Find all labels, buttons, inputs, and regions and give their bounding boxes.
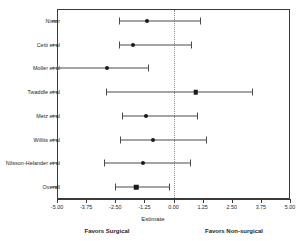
- confidence-interval-cap: [206, 136, 207, 143]
- x-axis-tick: [290, 199, 291, 203]
- x-axis-tick-label: 5.00: [285, 204, 296, 210]
- confidence-interval-cap: [104, 160, 105, 167]
- estimate-marker: [105, 66, 109, 70]
- confidence-interval-cap: [115, 184, 116, 191]
- estimate-marker: [145, 19, 149, 23]
- confidence-interval-cap: [169, 184, 170, 191]
- estimate-marker: [144, 114, 148, 118]
- x-axis-tick: [203, 199, 204, 203]
- x-axis-tick: [86, 199, 87, 203]
- confidence-interval-cap: [197, 112, 198, 119]
- x-axis-tick-label: 1.25: [197, 204, 208, 210]
- confidence-interval-line: [119, 20, 201, 21]
- x-axis-tick: [261, 199, 262, 203]
- confidence-interval-line: [104, 163, 190, 164]
- estimate-marker: [193, 90, 198, 95]
- y-axis-tick: [52, 139, 57, 140]
- forest-plot: NistorCetti et alMoller et alTwaddle et …: [0, 0, 306, 241]
- favors-non-surgical-label: Favors Non-surgical: [164, 228, 304, 234]
- estimate-marker: [134, 185, 139, 190]
- confidence-interval-cap: [120, 136, 121, 143]
- favors-surgical-label: Favors Surgical: [42, 228, 172, 234]
- confidence-interval-line: [57, 68, 148, 69]
- y-axis-tick: [52, 44, 57, 45]
- x-axis-tick-label: 0.00: [168, 204, 179, 210]
- x-axis-tick: [144, 199, 145, 203]
- confidence-interval-cap: [252, 89, 253, 96]
- confidence-interval-line: [120, 139, 206, 140]
- confidence-interval-cap: [119, 17, 120, 24]
- confidence-interval-cap: [191, 41, 192, 48]
- confidence-interval-line: [106, 92, 252, 93]
- confidence-interval-line: [122, 115, 197, 116]
- confidence-interval-cap: [57, 65, 58, 72]
- y-axis-tick: [52, 187, 57, 188]
- x-axis-tick: [232, 199, 233, 203]
- x-axis-tick-label: -2.50: [109, 204, 121, 210]
- x-axis-tick: [57, 199, 58, 203]
- confidence-interval-cap: [119, 41, 120, 48]
- confidence-interval-cap: [122, 112, 123, 119]
- x-axis-tick: [115, 199, 116, 203]
- confidence-interval-cap: [190, 160, 191, 167]
- estimate-marker: [141, 161, 145, 165]
- zero-reference-line: [174, 10, 175, 198]
- x-axis-tick: [174, 199, 175, 203]
- estimate-marker: [151, 138, 155, 142]
- y-axis-tick: [52, 115, 57, 116]
- x-axis-tick-label: 2.50: [227, 204, 238, 210]
- x-axis-tick-label: -3.75: [80, 204, 92, 210]
- y-axis-tick: [52, 163, 57, 164]
- confidence-interval-line: [115, 187, 169, 188]
- confidence-interval-line: [119, 44, 191, 45]
- estimate-marker: [131, 43, 135, 47]
- x-axis-title: Estimate: [0, 216, 306, 222]
- x-axis-tick-label: -5.00: [51, 204, 63, 210]
- confidence-interval-cap: [106, 89, 107, 96]
- x-axis-tick-label: -1.25: [138, 204, 150, 210]
- confidence-interval-cap: [200, 17, 201, 24]
- confidence-interval-cap: [148, 65, 149, 72]
- y-axis-tick: [52, 92, 57, 93]
- x-axis-tick-label: 3.75: [256, 204, 267, 210]
- y-axis-tick: [52, 20, 57, 21]
